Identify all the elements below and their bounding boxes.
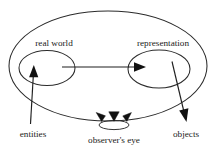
label-real-world: real world <box>35 38 73 48</box>
diagram-canvas: real world representation entities objec… <box>0 0 216 156</box>
entities-arrow-head <box>29 65 38 77</box>
label-objects: objects <box>173 129 199 139</box>
diagram-svg: real world representation entities objec… <box>0 0 216 156</box>
mapping-arrow-head <box>134 62 146 72</box>
real-world-ellipse <box>19 51 75 86</box>
observers-eye-ellipse <box>99 120 129 129</box>
label-observers-eye: observer's eye <box>88 135 140 145</box>
label-entities: entities <box>20 129 47 139</box>
outer-boundary-ellipse <box>9 11 207 121</box>
objects-arrow-head <box>179 108 188 122</box>
eye-wedge-center-icon <box>109 112 119 121</box>
label-representation: representation <box>137 38 189 48</box>
entities-arrow-line <box>31 74 34 124</box>
eye-wedge-left-icon <box>96 113 105 122</box>
